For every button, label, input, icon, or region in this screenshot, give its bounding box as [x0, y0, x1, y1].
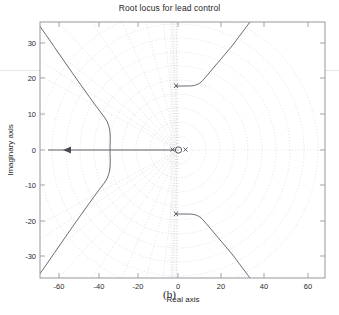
y-tick-label: 20	[28, 74, 36, 83]
figure-caption: (b)	[0, 288, 339, 300]
y-tick-label: -30	[25, 252, 36, 261]
y-tick-labels: 30 20 10 0 -10 -20 -30	[25, 39, 36, 261]
y-axis-title: Imaginary axis	[6, 124, 15, 176]
root-locus-figure: Root locus for lead control	[0, 0, 339, 315]
y-tick-label: 10	[28, 110, 36, 119]
y-tick-label: -20	[25, 217, 36, 226]
y-tick-label: 0	[32, 146, 36, 155]
root-locus-plot: -60 -40 -20 0 20 40 60 30 20 10 0 -10 -2…	[0, 0, 339, 315]
y-tick-label: -10	[25, 181, 36, 190]
y-tick-label: 30	[28, 39, 36, 48]
